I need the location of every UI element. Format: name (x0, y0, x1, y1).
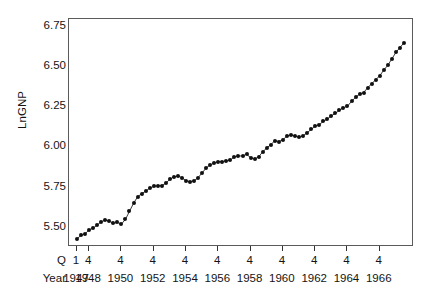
x-tick-mark (76, 246, 77, 251)
x-tick-year-label: 1966 (356, 272, 402, 284)
y-tick-label: 5.50 (24, 221, 66, 232)
x-tick-mark (120, 246, 121, 251)
data-point (269, 143, 273, 147)
data-point (281, 138, 285, 142)
data-point (160, 184, 164, 188)
data-point (350, 99, 354, 103)
x-tick-mark (88, 246, 89, 251)
y-tick-label: 5.75 (24, 181, 66, 192)
data-point (370, 82, 374, 86)
data-point (382, 68, 386, 72)
x-tick-mark (379, 246, 380, 251)
data-point (75, 237, 79, 241)
data-point (378, 74, 382, 78)
data-point (390, 57, 394, 61)
x-tick-mark (250, 246, 251, 251)
y-tick-label: 6.00 (24, 140, 66, 151)
x-tick-mark (314, 246, 315, 251)
data-point (200, 171, 204, 175)
data-point (249, 156, 253, 160)
data-point (374, 78, 378, 82)
x-tick-mark (346, 246, 347, 251)
y-tick-label: 6.75 (24, 20, 66, 31)
data-point (398, 46, 402, 50)
y-tick-label: 6.50 (24, 60, 66, 71)
data-point (317, 123, 321, 127)
data-point (140, 192, 144, 196)
data-point (358, 92, 362, 96)
chart-container: LnGNP 5.505.756.006.256.506.75 Q Year 11… (0, 0, 430, 298)
data-point (132, 201, 136, 205)
x-tick-quarter-label: 4 (359, 254, 399, 266)
data-point (257, 155, 261, 159)
data-point (305, 131, 309, 135)
data-point (144, 189, 148, 193)
x-tick-mark (153, 246, 154, 251)
series-line (69, 19, 414, 247)
y-tick-label: 6.25 (24, 100, 66, 111)
data-point (253, 157, 257, 161)
data-point (245, 152, 249, 156)
data-point (354, 95, 358, 99)
data-point (241, 154, 245, 158)
data-point (402, 41, 406, 45)
data-point (192, 179, 196, 183)
data-point (136, 195, 140, 199)
data-point (366, 86, 370, 90)
x-tick-mark (185, 246, 186, 251)
data-point (265, 146, 269, 150)
data-point (301, 134, 305, 138)
data-point (362, 91, 366, 95)
data-point (148, 186, 152, 190)
plot-area (68, 18, 413, 246)
x-tick-mark (282, 246, 283, 251)
x-tick-mark (217, 246, 218, 251)
data-point (261, 150, 265, 154)
data-point (83, 232, 87, 236)
data-point (196, 176, 200, 180)
